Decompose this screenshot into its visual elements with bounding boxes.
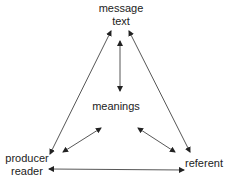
- node-message-label: message: [95, 2, 147, 15]
- node-meanings: meanings: [88, 100, 144, 113]
- edge-producer-referent: [49, 169, 184, 170]
- edge-meanings-referent: [138, 128, 175, 152]
- node-meanings-label: meanings: [92, 100, 140, 112]
- edge-referent-message: [129, 31, 190, 152]
- node-reader-label: reader: [3, 165, 51, 178]
- node-message-text: message text: [95, 2, 147, 28]
- node-producer-label: producer: [3, 152, 51, 165]
- node-producer-reader: producer reader: [3, 152, 51, 178]
- edge-meanings-producer: [63, 128, 101, 152]
- node-referent-label: referent: [185, 157, 223, 169]
- node-text-label: text: [95, 15, 147, 28]
- node-referent: referent: [183, 157, 225, 170]
- edge-producer-message: [50, 31, 111, 154]
